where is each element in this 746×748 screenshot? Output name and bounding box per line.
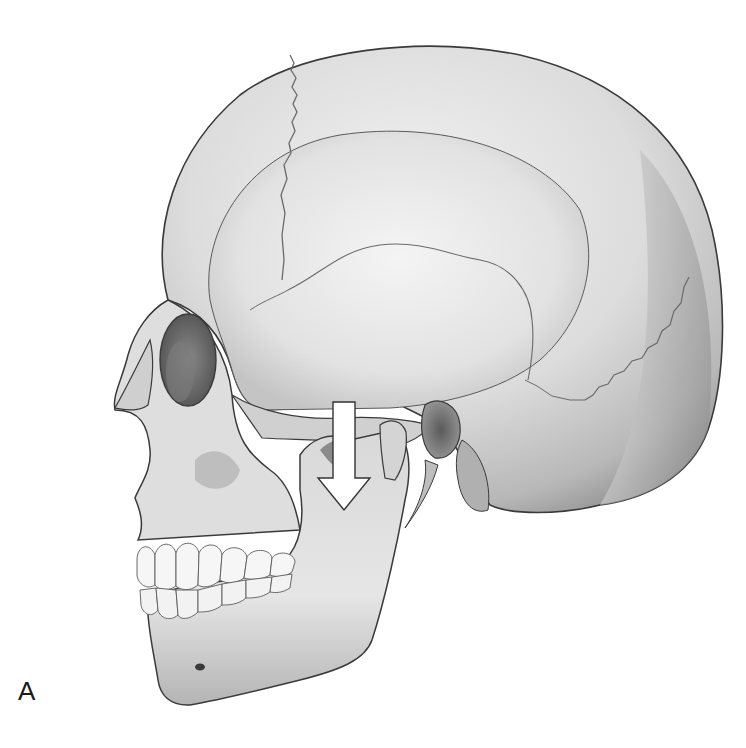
skull-illustration [0,0,746,748]
styloid-process [405,460,438,528]
anatomical-figure: A [0,0,746,748]
mental-foramen [195,664,205,671]
external-ear-canal [422,401,461,458]
panel-label: A [18,678,35,704]
